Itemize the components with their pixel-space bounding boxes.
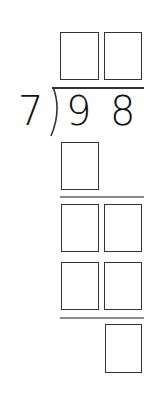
final-remainder-box[interactable]	[105, 324, 142, 373]
step2-product-tens-box[interactable]	[61, 262, 99, 310]
divisor: 7	[18, 91, 43, 131]
step1-remainder-ones-box[interactable]	[104, 204, 142, 252]
division-bracket	[48, 86, 62, 138]
subtraction-line-2	[60, 317, 144, 319]
quotient-ones-box[interactable]	[104, 32, 142, 80]
dividend-digit-ones: 8	[110, 91, 135, 131]
step1-product-box[interactable]	[61, 142, 99, 190]
step1-remainder-tens-box[interactable]	[61, 204, 99, 252]
quotient-tens-box[interactable]	[60, 32, 99, 80]
step2-product-ones-box[interactable]	[104, 262, 142, 310]
subtraction-line-1	[60, 196, 144, 198]
dividend-digit-tens: 9	[66, 91, 91, 131]
